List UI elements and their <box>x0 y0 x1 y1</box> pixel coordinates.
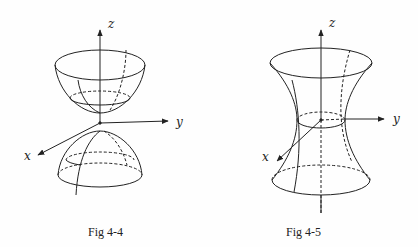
z-axis-label-4-4: z <box>107 17 115 31</box>
caption-fig-4-5: Fig 4-5 <box>286 225 321 239</box>
z-axis-label-4-5: z <box>328 16 336 30</box>
x-axis-label-4-4: x <box>24 149 31 163</box>
y-axis-label-4-4: y <box>175 115 183 129</box>
lower-sheet <box>58 131 142 195</box>
y-axis-label-4-5: y <box>392 112 400 126</box>
caption-fig-4-4: Fig 4-4 <box>88 225 123 239</box>
figure-4-5 <box>270 30 384 213</box>
x-axis-label-4-5: x <box>262 150 269 164</box>
figures-canvas: z y x Fig 4-4 z y x Fig 4-5 <box>0 0 418 247</box>
figure-4-4 <box>38 30 168 195</box>
axes-4-4 <box>38 30 168 155</box>
